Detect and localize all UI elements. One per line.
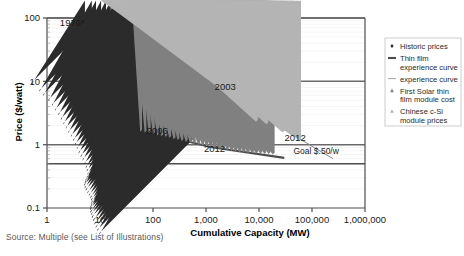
- y-tick-label: 1: [35, 139, 40, 150]
- y-tick-label: 100: [24, 12, 40, 23]
- x-tick-label: 1,000,000: [344, 214, 386, 225]
- source-note: Source: Multiple (see List of Illustrati…: [6, 232, 163, 242]
- legend-item-label: Historic prices: [400, 42, 448, 51]
- anno-1976: 1976*: [60, 17, 85, 28]
- legend-item-label: experience curve: [400, 63, 458, 72]
- anno-2012-thinfilm: 2012: [204, 143, 225, 154]
- anno-goal: Goal $.50/w: [294, 146, 340, 156]
- anno-2003: 2003: [215, 81, 236, 92]
- x-axis-title: Cumulative Capacity (MW): [190, 227, 309, 238]
- x-tick-label: 10,000: [244, 214, 273, 225]
- legend-item-label: film module cost: [400, 95, 456, 104]
- price-vs-capacity-chart: 1001010.11101001,00010,000100,0001,000,0…: [0, 0, 464, 256]
- x-tick-label: 100: [145, 214, 161, 225]
- anno-2012-csi: 2012: [285, 132, 306, 143]
- chart-figure: 1001010.11101001,00010,000100,0001,000,0…: [0, 0, 464, 256]
- legend-item-label: module prices: [400, 116, 447, 125]
- y-tick-label: 0.1: [27, 202, 40, 213]
- x-tick-label: 1: [44, 214, 49, 225]
- x-tick-label: 1,000: [194, 214, 218, 225]
- y-axis-title: Price ($/watt): [13, 82, 24, 141]
- anno-2006: 2006: [147, 125, 168, 136]
- legend-item-label: experience curve: [400, 75, 458, 84]
- x-tick-label: 100,000: [295, 214, 329, 225]
- y-tick-label: 10: [29, 76, 40, 87]
